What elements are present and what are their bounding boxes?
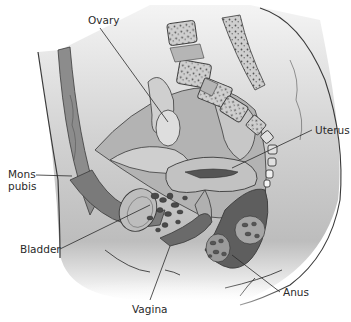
ovary-shape	[156, 110, 180, 146]
label-mons-pubis-line2: pubis	[8, 180, 36, 192]
label-uterus: Uterus	[315, 124, 350, 136]
label-ovary: Ovary	[88, 14, 119, 26]
levator-cluster	[235, 216, 265, 244]
label-vagina: Vagina	[132, 303, 167, 315]
anatomy-diagram: Ovary Uterus Mons pubis Bladder Vagina A…	[0, 0, 351, 322]
label-bladder: Bladder	[20, 243, 61, 255]
label-anus: Anus	[283, 286, 309, 298]
pelvis-illustration	[0, 0, 351, 322]
label-mons-pubis-line1: Mons	[8, 168, 36, 180]
